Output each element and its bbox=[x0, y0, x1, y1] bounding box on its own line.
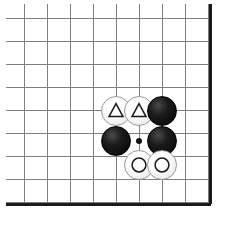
stone-white-circle[interactable] bbox=[147, 150, 177, 180]
go-board bbox=[0, 0, 225, 228]
empty-point-dot[interactable] bbox=[136, 138, 142, 144]
circle-mark-icon bbox=[148, 151, 176, 179]
stone-black[interactable] bbox=[101, 126, 131, 156]
stone-black[interactable] bbox=[147, 96, 177, 126]
